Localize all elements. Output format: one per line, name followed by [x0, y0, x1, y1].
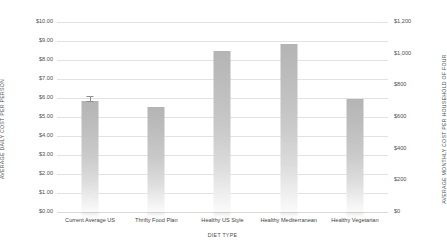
bar-slot	[189, 22, 255, 212]
y-axis-left-tick-label: $4.00	[39, 133, 53, 139]
y-axis-left-tick-label: $9.00	[39, 38, 53, 44]
bar	[280, 44, 297, 212]
y-axis-left-title: AVERAGE DAILY COST PER PERSON	[0, 79, 5, 179]
y-axis-left-tick-label: $1.00	[39, 190, 53, 196]
bar-slot	[322, 22, 388, 212]
y-axis-left-tick-label: $6.00	[39, 95, 53, 101]
bar	[346, 99, 363, 212]
y-axis-left-tick-label: $3.00	[39, 152, 53, 158]
bar	[82, 101, 99, 212]
y-axis-left-tick-label: $10.00	[36, 19, 53, 25]
y-axis-left-tick-label: $7.00	[39, 76, 53, 82]
bar-slot	[123, 22, 189, 212]
bar	[214, 51, 231, 212]
bar	[148, 107, 165, 212]
y-axis-left-tick-label: $5.00	[39, 114, 53, 120]
x-axis-category-label: Healthy US Style	[201, 218, 243, 224]
error-bar	[87, 96, 94, 102]
y-axis-left-tick-label: $8.00	[39, 57, 53, 63]
y-axis-left-tick-label: $2.00	[39, 171, 53, 177]
y-axis-right-tick-label: $800	[394, 82, 406, 88]
x-axis-category-label: Thrifty Food Plan	[135, 218, 178, 224]
y-axis-right-tick-label: $200	[394, 177, 406, 183]
bar-series	[57, 22, 388, 212]
y-axis-right-tick-label: $1,200	[394, 19, 411, 25]
error-bar-cap-bottom	[87, 101, 94, 102]
x-axis-category-label: Healthy Vegetarian	[331, 218, 378, 224]
x-axis-category-label: Current Average US	[65, 218, 115, 224]
error-bar-cap-top	[87, 96, 94, 97]
y-axis-left-tick-label: $0.00	[39, 209, 53, 215]
bar-slot	[256, 22, 322, 212]
y-axis-right-title: AVERAGE MONTHLY COST PER HOUSEHOLD OF FO…	[441, 54, 447, 204]
y-axis-right-tick-label: $0	[394, 209, 400, 215]
y-axis-right-tick-label: $400	[394, 146, 406, 152]
y-axis-right-tick-label: $1,000	[394, 51, 411, 57]
bar-slot	[57, 22, 123, 212]
x-axis-title: DIET TYPE	[0, 232, 445, 238]
y-axis-right-tick-label: $600	[394, 114, 406, 120]
x-axis-category-label: Healthy Mediterranean	[260, 218, 317, 224]
